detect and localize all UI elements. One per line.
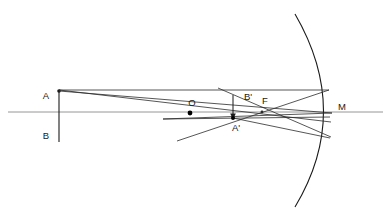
label-focus: F [262, 95, 268, 106]
label-center-of-curvature: O [188, 97, 195, 108]
label-image-bottom: A' [232, 122, 240, 133]
image-point-a-prime-dot [231, 116, 235, 120]
ray-image-to-mirror-lower [233, 118, 330, 138]
label-image-top: B' [244, 91, 252, 102]
center-of-curvature-dot [188, 111, 193, 116]
diagram-canvas: A B O B' A' F M [0, 0, 391, 213]
label-object-bottom: B [43, 130, 49, 141]
label-mirror-vertex: M [338, 101, 346, 112]
optics-ray-diagram: A B O B' A' F M [0, 0, 391, 213]
label-object-top: A [43, 90, 50, 101]
